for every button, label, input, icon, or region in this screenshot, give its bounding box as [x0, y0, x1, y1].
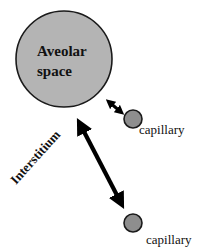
long-double-arrow — [80, 124, 121, 203]
alveolus-circle — [16, 11, 112, 107]
alveolar-space: Aveolar space — [16, 11, 112, 107]
alveolus-capillary-diagram: Aveolar space capillary Interstitium cap… — [0, 0, 202, 249]
alveolus-label-line1: Aveolar — [37, 43, 87, 59]
capillary-near-label: capillary — [139, 122, 185, 137]
capillary-near: capillary — [124, 110, 185, 137]
capillary-far: capillary — [124, 214, 192, 247]
short-double-arrow — [109, 102, 121, 112]
capillary-far-label: capillary — [146, 232, 192, 247]
alveolus-label-line2: space — [37, 63, 72, 79]
interstitium-label: Interstitium — [7, 127, 63, 187]
capillary-far-circle — [124, 214, 142, 232]
